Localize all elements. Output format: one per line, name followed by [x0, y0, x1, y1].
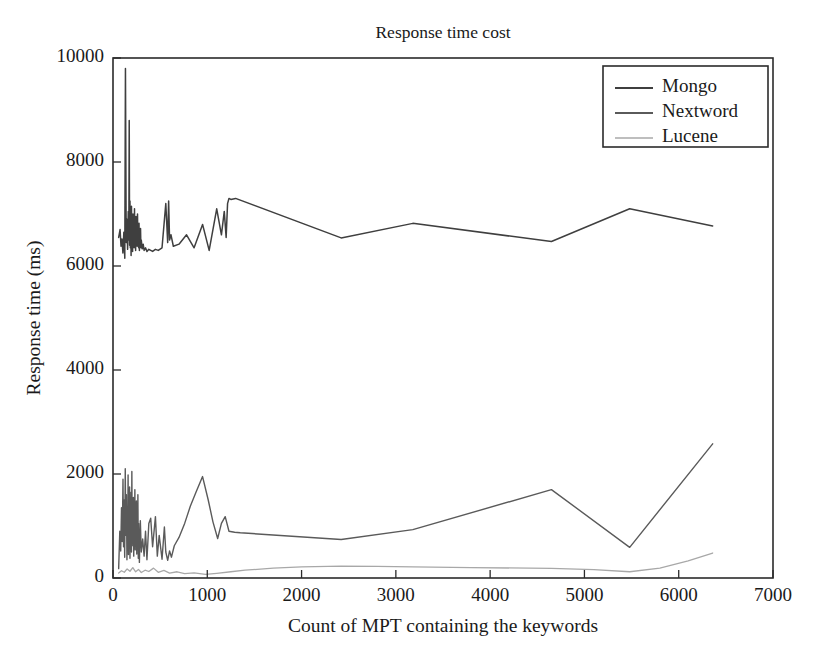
y-axis-title: Response time (ms)	[23, 241, 45, 396]
chart-title: Response time cost	[375, 22, 510, 42]
x-axis-title: Count of MPT containing the keywords	[288, 615, 598, 636]
x-tick-label: 6000	[660, 584, 698, 605]
x-tick-label: 5000	[565, 584, 603, 605]
y-tick-label: 6000	[66, 253, 104, 274]
x-tick-label: 7000	[754, 584, 792, 605]
x-tick-label: 4000	[471, 584, 509, 605]
y-tick-label: 2000	[66, 461, 104, 482]
legend-label-mongo: Mongo	[662, 75, 717, 96]
x-tick-label: 3000	[377, 584, 415, 605]
legend-label-lucene: Lucene	[662, 125, 718, 146]
chart-legend[interactable]: MongoNextwordLucene	[603, 66, 768, 147]
y-tick-label: 10000	[57, 45, 105, 66]
chart-figure: Response time cost 020004000600080001000…	[0, 0, 817, 666]
legend-label-nextword: Nextword	[662, 100, 738, 121]
x-tick-label: 1000	[188, 584, 226, 605]
y-tick-label: 0	[95, 565, 105, 586]
response-time-line-chart: Response time cost 020004000600080001000…	[0, 0, 817, 666]
y-tick-label: 4000	[66, 357, 104, 378]
y-tick-label: 8000	[66, 149, 104, 170]
x-tick-label: 0	[108, 584, 118, 605]
x-tick-label: 2000	[283, 584, 321, 605]
